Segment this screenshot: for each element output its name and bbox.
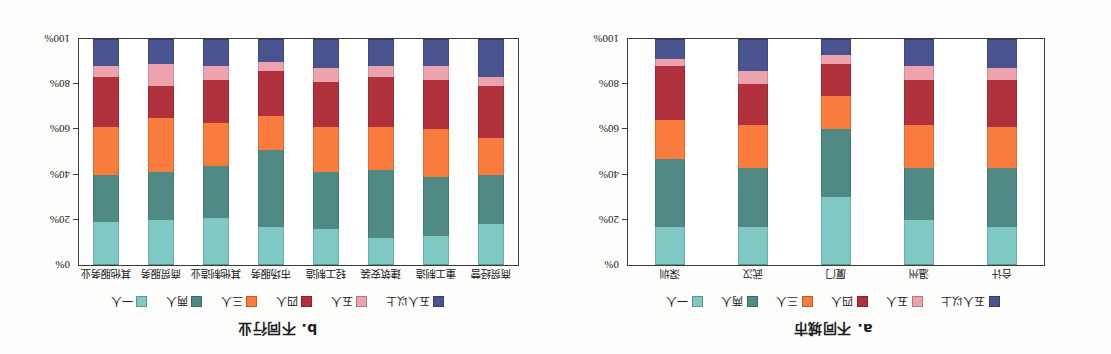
bar-segment [423, 129, 449, 176]
y-tick-label: 0% [604, 259, 628, 271]
category-label: 温州 [909, 267, 929, 282]
legend-item-two: 两人 [721, 294, 758, 310]
category-label: 重工制造 [416, 267, 456, 282]
bar-segment [258, 71, 284, 116]
bar-segment [904, 168, 934, 220]
bar-segment [478, 138, 504, 174]
bar-segment [478, 39, 504, 77]
bar-segment [258, 62, 284, 71]
stacked-bar [423, 39, 449, 265]
y-tick-mark [73, 174, 79, 175]
legend-swatch-three [802, 297, 813, 308]
stacked-bar [258, 39, 284, 265]
stacked-bar [313, 39, 339, 265]
bar-segment [423, 177, 449, 236]
panel-b-category-labels: 商贸经营重工制造建筑安装轻工制造市场服务其他制造业商贸服务其他服务业 [79, 265, 518, 287]
y-tick-label: 80% [599, 78, 628, 90]
bar-segment [904, 39, 934, 66]
category-label: 合计 [992, 267, 1012, 282]
legend-label-three: 三人 [221, 294, 243, 310]
legend-label-three: 三人 [776, 294, 798, 310]
legend-item-four: 四人 [276, 294, 313, 310]
legend-item-one: 一人 [111, 294, 148, 310]
stacked-bar [821, 39, 851, 265]
bar-segment [821, 96, 851, 130]
legend-label-five-plus: 五人以上 [941, 294, 985, 310]
bar-segment [987, 168, 1017, 227]
bar-segment [203, 66, 229, 80]
category-label: 商贸经营 [471, 267, 511, 282]
legend-swatch-five-plus [989, 297, 1000, 308]
legend-item-four: 四人 [831, 294, 868, 310]
bar-segment [738, 39, 768, 71]
legend-item-three: 三人 [221, 294, 258, 310]
bar-segment [313, 82, 339, 127]
bar-segment [655, 39, 685, 59]
bar-segment [655, 59, 685, 66]
panel-a-legend: 五人以上 五人 四人 三人 两人 一人 [555, 294, 1111, 310]
bar-segment [655, 159, 685, 227]
bar-segment [423, 236, 449, 265]
bar-segment [203, 166, 229, 218]
bar-segment [93, 222, 119, 265]
bar-segment [821, 55, 851, 64]
bar-segment [738, 168, 768, 227]
y-tick-label: 0% [55, 259, 79, 271]
bar-segment [423, 66, 449, 80]
bar-segment [655, 120, 685, 158]
legend-label-five: 五人 [886, 294, 908, 310]
stacked-bar [655, 39, 685, 265]
bar-segment [93, 77, 119, 127]
y-tick-label: 100% [593, 33, 628, 45]
bar-segment [313, 172, 339, 229]
y-tick-label: 40% [599, 169, 628, 181]
bar-segment [987, 127, 1017, 168]
panel-industries: b. 不同行业 五人以上 五人 四人 三人 两人 [0, 0, 555, 354]
bar-segment [738, 71, 768, 85]
legend-swatch-three [247, 297, 258, 308]
bar-segment [987, 80, 1017, 127]
legend-swatch-one [692, 297, 703, 308]
bar-segment [821, 129, 851, 197]
bar-segment [904, 220, 934, 265]
bar-segment [904, 125, 934, 168]
bar-segment [148, 118, 174, 172]
legend-label-five: 五人 [331, 294, 353, 310]
figure-canvas: a. 不同城市 五人以上 五人 四人 三人 两人 [0, 0, 1111, 354]
bar-segment [478, 77, 504, 86]
legend-swatch-five [912, 297, 923, 308]
panel-a-category-labels: 合计温州厦门武汉深圳 [628, 265, 1044, 287]
stacked-bar [904, 39, 934, 265]
bar-segment [313, 68, 339, 82]
bar-segment [258, 39, 284, 62]
bar-segment [93, 39, 119, 66]
category-label: 市场服务 [251, 267, 291, 282]
bar-segment [368, 66, 394, 77]
panel-a-plot-frame: 合计温州厦门武汉深圳 0%20%40%60%80%100% [627, 38, 1045, 266]
bar-segment [987, 68, 1017, 79]
stacked-bar [93, 39, 119, 265]
legend-swatch-five-plus [434, 297, 445, 308]
category-label: 轻工制造 [306, 267, 346, 282]
legend-item-five: 五人 [886, 294, 923, 310]
bar-segment [203, 123, 229, 166]
bar-segment [738, 84, 768, 125]
stacked-bar [987, 39, 1017, 265]
stacked-bar [738, 39, 768, 265]
category-label: 建筑安装 [361, 267, 401, 282]
bar-segment [368, 127, 394, 170]
stacked-bar [478, 39, 504, 265]
y-tick-mark [73, 83, 79, 84]
bar-segment [423, 39, 449, 66]
bar-segment [313, 39, 339, 68]
legend-item-one: 一人 [666, 294, 703, 310]
y-tick-label: 40% [50, 169, 79, 181]
panel-a-title: a. 不同城市 [555, 320, 1111, 340]
legend-label-one: 一人 [111, 294, 133, 310]
y-tick-label: 80% [50, 78, 79, 90]
bar-segment [313, 127, 339, 172]
bar-segment [93, 127, 119, 174]
bar-segment [258, 116, 284, 150]
bar-segment [368, 170, 394, 238]
panel-b-title: b. 不同行业 [0, 320, 555, 340]
